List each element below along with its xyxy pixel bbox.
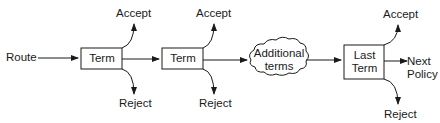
arrow-last-reject <box>384 79 398 104</box>
term2-label: Term <box>162 52 204 65</box>
last-term-label: Last Term <box>344 49 385 75</box>
arrow-last-accept <box>384 25 398 45</box>
term2-accept-label: Accept <box>196 8 231 20</box>
term1-accept-label: Accept <box>116 8 151 20</box>
arrow-term2-reject <box>203 69 214 94</box>
next-policy-line1: Next <box>407 55 440 68</box>
last-term-line2: Term <box>344 62 385 75</box>
arrow-term1-accept <box>122 24 134 48</box>
additional-terms-line2: terms <box>252 60 306 73</box>
additional-terms-label: Additional terms <box>252 47 306 73</box>
arrow-term2-accept <box>203 24 214 48</box>
route-label: Route <box>6 52 37 64</box>
next-policy-line2: Policy <box>407 68 440 81</box>
term1-reject-label: Reject <box>119 98 152 110</box>
additional-terms-line1: Additional <box>252 47 306 60</box>
arrow-term1-reject <box>122 69 134 94</box>
last-term-line1: Last <box>344 49 385 62</box>
term1-label: Term <box>81 52 123 65</box>
term2-reject-label: Reject <box>199 98 232 110</box>
last-accept-label: Accept <box>383 9 418 21</box>
last-reject-label: Reject <box>384 109 417 121</box>
next-policy-label: Next Policy <box>407 55 440 81</box>
